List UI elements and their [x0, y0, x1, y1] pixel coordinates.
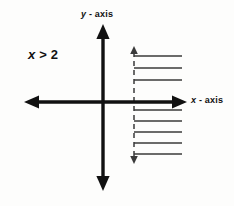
x-axis-label-word: axis: [205, 95, 223, 105]
y-axis-label-word: axis: [95, 9, 113, 19]
inequality-statement-label: x > 2: [28, 48, 58, 61]
x-axis-arrow-right-icon: [172, 95, 187, 108]
x-axis-label: x - axis: [191, 96, 223, 105]
boundary-arrow-down-icon: [130, 156, 138, 164]
inequality-graph-figure: y - axis x - axis x > 2: [0, 0, 234, 206]
y-axis-group: [96, 24, 109, 191]
y-axis-label: y - axis: [81, 10, 113, 19]
y-axis-label-separator: -: [86, 9, 95, 19]
x-axis-label-separator: -: [196, 95, 205, 105]
boundary-line-group: [130, 46, 138, 164]
inequality-value: 2: [51, 47, 58, 62]
inequality-relation: >: [35, 47, 50, 62]
y-axis-arrow-up-icon: [96, 24, 109, 39]
x-axis-arrow-left-icon: [24, 95, 39, 108]
x-axis-group: [24, 95, 187, 108]
boundary-arrow-up-icon: [130, 46, 138, 54]
y-axis-arrow-down-icon: [96, 176, 109, 191]
